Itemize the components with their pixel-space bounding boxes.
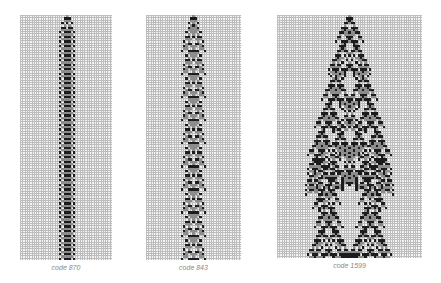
ca-grid-code-870 [20, 15, 112, 260]
ca-grid-code-843 [146, 15, 241, 260]
caption-code-1599: code 1599 [277, 262, 422, 269]
caption-code-870: code 870 [20, 264, 112, 271]
ca-panel-code-843 [146, 15, 241, 260]
ca-panel-code-870 [20, 15, 112, 260]
ca-panel-code-1599 [277, 15, 422, 258]
caption-code-843: code 843 [146, 264, 241, 271]
ca-grid-code-1599 [277, 15, 422, 258]
